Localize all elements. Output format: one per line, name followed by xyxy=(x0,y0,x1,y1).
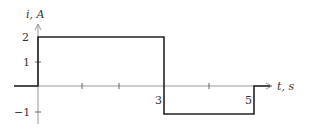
current-waveform xyxy=(14,37,270,114)
y-tick-label-1: 1 xyxy=(23,56,30,69)
current-vs-time-chart: i, A 2 1 −1 3 5 t, s xyxy=(0,0,312,130)
x-tick-label-3: 3 xyxy=(155,94,162,107)
x-tick-label-5: 5 xyxy=(245,94,252,107)
y-tick-label-2: 2 xyxy=(22,31,29,44)
y-tick-label-minus1: −1 xyxy=(14,106,30,119)
y-axis-label: i, A xyxy=(26,8,45,21)
x-axis-label: t, s xyxy=(277,80,294,93)
